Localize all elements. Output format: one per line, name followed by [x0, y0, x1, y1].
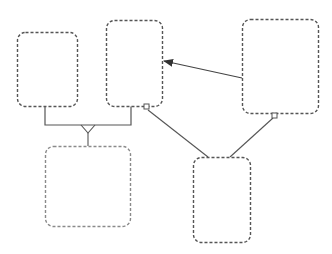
arrow-box3-to-box2[interactable]: [164, 61, 242, 78]
nodes-layer: [18, 20, 319, 243]
bracket-box1-box2[interactable]: [45, 106, 131, 125]
line-box2-to-box4[interactable]: [148, 110, 208, 157]
line-box3-to-box4[interactable]: [230, 118, 273, 157]
box-2-node[interactable]: [107, 21, 163, 107]
box-1-node[interactable]: [18, 33, 78, 107]
fork-icon: [81, 125, 95, 133]
diagram-canvas: [0, 0, 332, 254]
square-port-icon[interactable]: [272, 113, 277, 118]
fork-to-box5[interactable]: [81, 125, 95, 146]
box-5-node[interactable]: [46, 147, 131, 227]
diagram-svg: [0, 0, 332, 254]
box-3-node[interactable]: [243, 20, 319, 114]
square-port-icon[interactable]: [144, 104, 149, 109]
box-4-node[interactable]: [194, 158, 251, 243]
